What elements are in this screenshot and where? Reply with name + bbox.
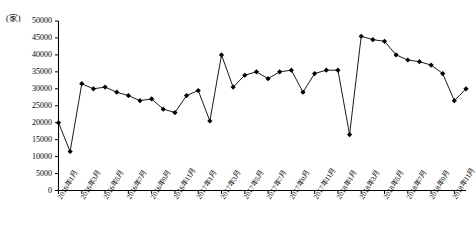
chart-container: (家) 050001000015000200002500030000350004… [0,0,476,246]
data-point-marker [324,68,329,73]
data-line-series [59,36,467,151]
data-point-marker [79,81,84,86]
data-point-marker [277,69,282,74]
data-point-marker [265,76,270,81]
data-point-marker [126,93,131,98]
data-point-marker [207,118,212,123]
data-point-marker [102,85,107,90]
data-point-marker [137,98,142,103]
data-point-marker [359,34,364,39]
data-point-marker [91,86,96,91]
data-point-marker [184,93,189,98]
data-point-marker [335,68,340,73]
data-point-marker [347,132,352,137]
data-point-marker [196,88,201,93]
data-point-marker [172,110,177,115]
data-point-marker [417,59,422,64]
data-point-marker [300,90,305,95]
data-point-marker [289,68,294,73]
data-point-marker [254,69,259,74]
data-point-marker [68,149,73,154]
data-point-marker [405,57,410,62]
data-point-marker [312,71,317,76]
data-point-marker [219,52,224,57]
data-point-marker [114,90,119,95]
axes [59,21,467,191]
data-point-marker [56,120,61,125]
data-point-markers [56,34,469,154]
data-point-marker [370,37,375,42]
plot-area [0,0,476,246]
